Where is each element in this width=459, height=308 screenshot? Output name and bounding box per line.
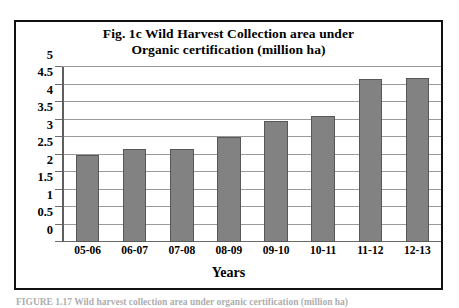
x-axis-label-08-09: 08-09 <box>205 244 252 256</box>
bar-slot-07-08 <box>158 67 205 242</box>
bar-07-08[interactable] <box>170 149 194 242</box>
bar-12-13[interactable] <box>406 78 430 242</box>
bar-slot-06-07 <box>111 67 158 242</box>
x-axis-title: Years <box>16 265 441 281</box>
y-tick-5 <box>55 66 62 67</box>
y-axis-label-2: 2 <box>47 153 53 166</box>
x-axis-label-10-11: 10-11 <box>300 244 347 256</box>
y-axis-label-0.5: 0.5 <box>37 206 53 219</box>
y-tick-4.5 <box>55 84 62 85</box>
chart-title-line-1: Fig. 1c Wild Harvest Collection area und… <box>16 26 441 42</box>
x-axis-label-07-08: 07-08 <box>158 244 205 256</box>
chart-title-line-2: Organic certification (million ha) <box>16 42 441 58</box>
bar-09-10[interactable] <box>264 121 288 242</box>
y-tick-0 <box>55 241 62 242</box>
y-axis-label-3: 3 <box>47 118 53 131</box>
x-axis-label-12-13: 12-13 <box>394 244 441 256</box>
y-axis-label-2.5: 2.5 <box>37 136 53 149</box>
bar-08-09[interactable] <box>217 137 241 242</box>
y-tick-4 <box>55 101 62 102</box>
y-axis-label-0: 0 <box>47 223 53 236</box>
y-axis-label-4: 4 <box>47 83 53 96</box>
y-tick-1 <box>55 206 62 207</box>
y-tick-3.5 <box>55 119 62 120</box>
y-axis-label-5: 5 <box>47 48 53 61</box>
plot-area: 54.543.532.521.510.50 <box>62 67 441 242</box>
x-axis-label-09-10: 09-10 <box>253 244 300 256</box>
x-axis-label-11-12: 11-12 <box>347 244 394 256</box>
bar-06-07[interactable] <box>123 149 147 242</box>
bar-slot-05-06 <box>64 67 111 242</box>
bar-slot-08-09 <box>205 67 252 242</box>
bar-slot-11-12 <box>347 67 394 242</box>
y-axis-label-1: 1 <box>47 188 53 201</box>
figure-caption: FIGURE 1.17 Wild harvest collection area… <box>16 297 446 308</box>
chart-title: Fig. 1c Wild Harvest Collection area und… <box>16 26 441 58</box>
x-axis-label-05-06: 05-06 <box>64 244 111 256</box>
y-tick-0.5 <box>55 224 62 225</box>
y-tick-3 <box>55 136 62 137</box>
y-axis-label-4.5: 4.5 <box>37 66 53 79</box>
bar-10-11[interactable] <box>311 116 335 242</box>
bar-slot-09-10 <box>253 67 300 242</box>
bar-slot-10-11 <box>300 67 347 242</box>
x-axis-category-labels: 05-0606-0707-0808-0909-1010-1111-1212-13 <box>64 244 441 262</box>
bar-series <box>64 67 441 242</box>
bar-slot-12-13 <box>394 67 441 242</box>
x-axis-label-06-07: 06-07 <box>111 244 158 256</box>
figure-frame: Fig. 1c Wild Harvest Collection area und… <box>14 20 443 290</box>
y-tick-2 <box>55 171 62 172</box>
y-tick-2.5 <box>55 154 62 155</box>
y-axis-label-1.5: 1.5 <box>37 171 53 184</box>
y-tick-1.5 <box>55 189 62 190</box>
bar-11-12[interactable] <box>359 79 383 242</box>
y-axis-label-3.5: 3.5 <box>37 101 53 114</box>
bar-05-06[interactable] <box>76 155 100 243</box>
